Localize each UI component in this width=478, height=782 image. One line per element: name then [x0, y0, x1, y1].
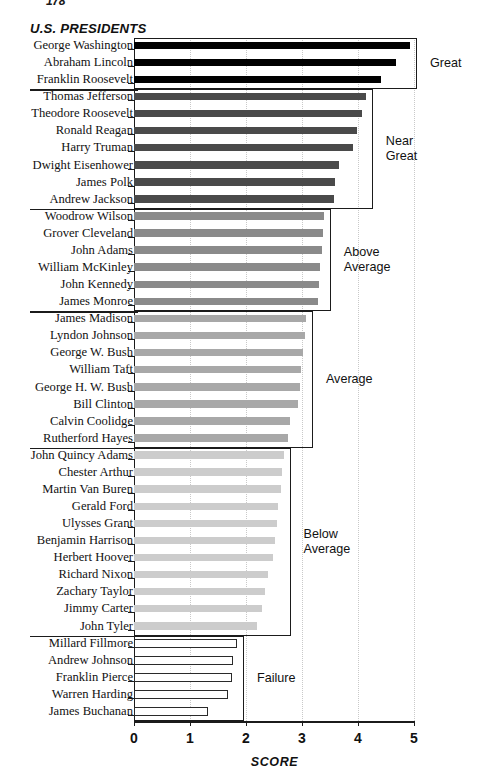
group-label: Average [326, 372, 373, 387]
bar-row-label: Bill Clinton [0, 397, 133, 411]
group-bracket [134, 448, 291, 636]
x-axis-title: SCORE [134, 755, 415, 769]
bar-row-label: Andrew Johnson [0, 653, 133, 667]
bar-row-label: Andrew Jackson [0, 192, 133, 206]
bar-row-label: Theodore Roosevelt [0, 106, 133, 120]
x-axis-tick [302, 721, 303, 726]
x-axis-tick-label: 1 [175, 730, 205, 746]
bar-row-label: Chester Arthur [0, 465, 133, 479]
x-axis-tick [134, 721, 135, 726]
bar-row-label: George W. Bush [0, 345, 133, 359]
bar-row-label: Franklin Roosevelt [0, 72, 133, 86]
x-axis-tick [414, 721, 415, 726]
bar-row-label: Jimmy Carter [0, 601, 133, 615]
bar-row-label: James Monroe [0, 294, 133, 308]
x-axis-tick-label: 2 [231, 730, 261, 746]
bar-chart: U.S. PRESIDENTS George WashingtonAbraham… [0, 0, 478, 782]
group-label: Near Great [386, 134, 418, 164]
bar-row-label: Richard Nixon [0, 567, 133, 581]
bar-row-label: William Taft [0, 362, 133, 376]
bar-row-label: John Adams [0, 243, 133, 257]
group-bracket [134, 89, 373, 209]
bar-row-label: James Madison [0, 311, 133, 325]
chart-title: U.S. PRESIDENTS [30, 21, 147, 36]
group-label: Failure [257, 671, 296, 686]
x-axis-tick-label: 4 [343, 730, 373, 746]
group-bracket [134, 636, 244, 721]
bar-row-label: William McKinley [0, 260, 133, 274]
bar-row-label: Franklin Pierce [0, 670, 133, 684]
x-axis-tick [246, 721, 247, 726]
bar-row-label: Harry Truman [0, 140, 133, 154]
bar-row-label: Dwight Eisenhower [0, 158, 133, 172]
bar-row-label: Millard Fillmore [0, 636, 133, 650]
bar-row-label: Woodrow Wilson [0, 209, 133, 223]
group-separator [30, 311, 138, 312]
group-separator [30, 636, 138, 637]
x-axis-tick [190, 721, 191, 726]
group-label: Great [430, 56, 462, 71]
bar-row-label: Calvin Coolidge [0, 414, 133, 428]
bar-row-label: Martin Van Buren [0, 482, 133, 496]
group-label: Above Average [344, 245, 391, 275]
bar-row-label: James Buchanan [0, 704, 133, 718]
group-label: Below Average [304, 527, 351, 557]
bar-row-label: Herbert Hoover [0, 550, 133, 564]
x-axis-tick-label: 3 [287, 730, 317, 746]
bar-row-label: Rutherford Hayes [0, 431, 133, 445]
bar-row-label: George H. W. Bush [0, 380, 133, 394]
bar-row-label: Abraham Lincoln [0, 55, 133, 69]
group-bracket [134, 209, 331, 311]
bar-row-label: Thomas Jefferson [0, 89, 133, 103]
x-axis-tick [358, 721, 359, 726]
bar-row-label: Ronald Reagan [0, 123, 133, 137]
x-axis-line [134, 721, 415, 723]
bar-row-label: James Polk [0, 175, 133, 189]
group-bracket [134, 311, 313, 448]
bar-row-label: John Kennedy [0, 277, 133, 291]
bar-row-label: John Tyler [0, 619, 133, 633]
bar-row-label: Benjamin Harrison [0, 533, 133, 547]
group-separator [30, 448, 138, 449]
bar-row-label: Zachary Taylor [0, 584, 133, 598]
bar-row-label: Gerald Ford [0, 499, 133, 513]
group-bracket [134, 38, 417, 89]
bar-row-label: Grover Cleveland [0, 226, 133, 240]
group-separator [30, 209, 138, 210]
x-axis-tick-label: 5 [399, 730, 429, 746]
bar-row-label: Warren Harding [0, 687, 133, 701]
group-separator [30, 89, 138, 90]
bar-row-label: Ulysses Grant [0, 516, 133, 530]
bar-row-label: George Washington [0, 38, 133, 52]
bar-row-label: John Quincy Adams [0, 448, 133, 462]
bar-row-label: Lyndon Johnson [0, 328, 133, 342]
x-axis-tick-label: 0 [119, 730, 149, 746]
